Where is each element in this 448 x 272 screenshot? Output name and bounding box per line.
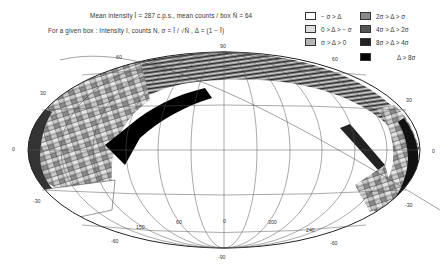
label-lat-30-left: 30: [40, 90, 46, 96]
label-lat-60-right: 60: [332, 56, 338, 62]
label-lon-0: 0: [223, 218, 226, 224]
label-lat-minus60-left: -60: [111, 238, 119, 244]
label-lon-150: 150: [136, 224, 145, 230]
label-lat-0-right: 0: [432, 148, 435, 154]
label-lat-minus60-right: -60: [330, 240, 338, 246]
right-lobe-lower: [355, 165, 395, 212]
label-lat-0-left: 0: [12, 146, 15, 152]
label-lon-240: 240: [306, 227, 315, 233]
sky-map: [0, 0, 448, 272]
label-lat-30-right: 30: [406, 97, 412, 103]
label-lat-90: 90: [220, 43, 226, 49]
dark-strip-right: [340, 124, 385, 170]
label-lat-60-left: 60: [116, 54, 122, 60]
label-lat-minus30-left: -30: [33, 198, 41, 204]
label-lat-minus30-right: -30: [405, 202, 413, 208]
label-lon-60: 60: [176, 219, 182, 225]
coverage-lower-left: [40, 180, 115, 218]
label-lat-minus90: -90: [218, 254, 226, 260]
label-lon-300: 300: [268, 219, 277, 225]
